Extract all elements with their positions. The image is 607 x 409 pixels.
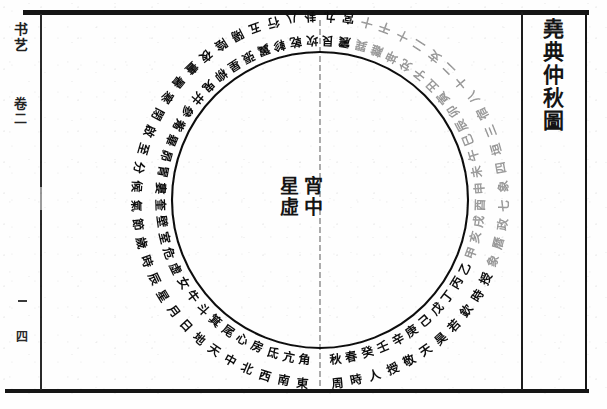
ring-char: 二 (410, 36, 428, 54)
ring-char: 卯 (443, 102, 462, 120)
page-canvas: 书艺 卷二 四 堯典仲秋圖 (0, 0, 607, 409)
ring-char: 午 (464, 148, 482, 164)
ring-char: 陰 (211, 36, 230, 56)
ring-char: 亥 (466, 230, 483, 245)
ring-char: 授 (476, 269, 495, 287)
ring-char: 十 (452, 73, 471, 92)
ring-char: 五 (247, 19, 263, 36)
ring-char: 閉 (148, 105, 166, 122)
ring-char: 時 (138, 253, 156, 269)
ring-char: 寒 (158, 88, 178, 107)
ring-char: 月 (164, 301, 183, 320)
ring-char: 秋 (328, 351, 342, 367)
ring-char: 十 (394, 27, 411, 46)
ring-char: 候 (129, 180, 145, 194)
ring-char: 奎 (153, 198, 168, 212)
ring-char: 震 (337, 34, 352, 50)
ring-char: 張 (239, 48, 257, 66)
ring-char: 乙 (456, 260, 474, 277)
ring-char: 中 (222, 351, 240, 370)
ring-char: 辰 (145, 270, 163, 287)
ring-char: 西 (258, 367, 274, 384)
ring-char: 氣 (129, 199, 144, 211)
ring-char: 啟 (140, 123, 159, 141)
ring-char: 星 (225, 56, 243, 74)
margin-volume-label: 卷二 (13, 97, 27, 139)
ring-char: 昊 (431, 330, 449, 348)
book-gutter-line (40, 14, 42, 390)
ring-char: 七 (497, 199, 511, 211)
margin-top-label: 书艺 (12, 22, 27, 80)
ring-char: 女 (174, 274, 193, 292)
margin-page-text: 四 (14, 330, 26, 344)
ring-char: 若 (444, 316, 464, 336)
ring-char: 危 (160, 244, 178, 261)
ring-char: 春 (343, 348, 360, 365)
ring-char: 北 (239, 359, 256, 378)
center-right-column: 宵中 (302, 176, 322, 218)
ring-char: 房 (249, 337, 266, 356)
ring-char: 南 (276, 371, 291, 388)
diagram-title: 堯典仲秋圖 (541, 18, 563, 138)
ring-char: 癸 (358, 343, 376, 361)
ring-char: 斗 (194, 300, 212, 318)
ring-char: 政 (494, 216, 511, 231)
ring-char: 兌 (397, 56, 415, 75)
ring-char: 觜 (170, 117, 189, 135)
ring-char: 柳 (211, 65, 230, 84)
ring-char: 辰 (452, 117, 470, 134)
ring-char: 戌 (470, 214, 486, 228)
ring-char: 戊 (426, 300, 446, 320)
ring-char: 箕 (206, 311, 225, 330)
ring-char: 翼 (255, 41, 272, 59)
frame-top-rule (23, 10, 589, 15)
ring-char: 尾 (219, 322, 237, 340)
ring-char: 星 (154, 287, 172, 305)
ring-char: 巳 (460, 132, 477, 148)
ring-char: 曆 (491, 236, 507, 251)
ring-char: 婁 (153, 182, 169, 195)
margin-top-text: 书艺 (12, 22, 27, 53)
ring-char: 寅 (433, 89, 452, 108)
ring-char: 室 (156, 230, 173, 245)
ring-char: 天 (205, 341, 224, 360)
ring-char: 坎 (305, 33, 318, 49)
ring-char: 乾 (288, 34, 302, 51)
margin-page-label: 四 (14, 330, 26, 364)
ring-char: 坤 (383, 48, 400, 67)
ring-char: 晝 (182, 59, 201, 78)
margin-volume-text: 卷二 (13, 97, 27, 128)
ring-char: 丁 (438, 288, 456, 306)
ring-char: 己 (416, 312, 434, 330)
ring-char: 夜 (196, 46, 216, 66)
ring-char: 歲 (133, 235, 150, 250)
ring-char: 時 (349, 371, 364, 388)
ring-char: 暑 (169, 73, 187, 91)
ring-char: 畢 (163, 132, 180, 148)
ring-char: 時 (467, 286, 486, 304)
ring-char: 干 (377, 19, 393, 36)
frame-right-rule (585, 10, 587, 391)
ring-char: 陽 (229, 27, 246, 45)
ring-char: 氐 (265, 343, 281, 361)
ring-char: 日 (176, 317, 194, 335)
ring-char: 二 (439, 59, 457, 77)
ring-char: 壬 (374, 337, 391, 356)
ring-char: 地 (190, 329, 209, 348)
ring-char: 天 (417, 341, 436, 360)
ring-char: 分 (131, 161, 148, 175)
ring-char: 虛 (167, 260, 186, 277)
ring-char: 心 (233, 331, 250, 349)
ring-char: 胃 (155, 165, 171, 179)
ring-char: 人 (367, 366, 384, 384)
ring-char: 艮 (321, 33, 335, 48)
ring-char: 酉 (473, 199, 487, 211)
title-column-divider (521, 12, 523, 390)
ring-char: 敬 (400, 350, 420, 370)
ring-char: 昴 (158, 148, 175, 163)
ring-char: 十 (359, 14, 374, 32)
ring-char: 巽 (353, 37, 368, 54)
ring-char: 鬼 (199, 76, 218, 95)
ring-char: 甲 (462, 245, 479, 261)
center-left-column: 星虛 (278, 176, 298, 218)
